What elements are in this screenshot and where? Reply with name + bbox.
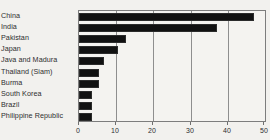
category-label: Philippine Republic bbox=[1, 112, 74, 120]
gridline bbox=[228, 11, 229, 121]
category-axis-labels: ChinaIndiaPakistanJapanJava and MaduraTh… bbox=[0, 10, 78, 122]
category-label: South Korea bbox=[1, 90, 74, 98]
axis-tick-label: 50 bbox=[260, 126, 268, 135]
category-label: Thailand (Siam) bbox=[1, 68, 74, 76]
axis-tick-label: 40 bbox=[223, 126, 231, 135]
axis-tick bbox=[263, 122, 264, 125]
axis-tick-label: 10 bbox=[111, 126, 119, 135]
axis-tick-label: 0 bbox=[76, 126, 80, 135]
bar bbox=[79, 13, 254, 21]
axis-tick bbox=[190, 122, 191, 125]
category-label: Japan bbox=[1, 45, 74, 53]
axis-tick-label: 20 bbox=[148, 126, 156, 135]
bar bbox=[79, 91, 92, 99]
bar bbox=[79, 57, 104, 65]
bar bbox=[79, 24, 217, 32]
value-axis: 01020304050 bbox=[78, 122, 266, 140]
bar bbox=[79, 46, 118, 54]
category-label: Java and Madura bbox=[1, 56, 74, 64]
bar bbox=[79, 113, 92, 121]
axis-tick bbox=[78, 122, 79, 125]
axis-tick bbox=[227, 122, 228, 125]
bar bbox=[79, 102, 92, 110]
bar bbox=[79, 69, 99, 77]
plot-area bbox=[78, 10, 266, 122]
axis-tick-label: 30 bbox=[186, 126, 194, 135]
bar bbox=[79, 80, 99, 88]
category-label: Brazil bbox=[1, 101, 74, 109]
axis-tick bbox=[152, 122, 153, 125]
bar bbox=[79, 35, 126, 43]
axis-tick bbox=[115, 122, 116, 125]
category-label: India bbox=[1, 23, 74, 31]
chart-figure: ChinaIndiaPakistanJapanJava and MaduraTh… bbox=[0, 0, 270, 140]
category-label: Pakistan bbox=[1, 34, 74, 42]
category-label: China bbox=[1, 12, 74, 20]
category-label: Burma bbox=[1, 79, 74, 87]
